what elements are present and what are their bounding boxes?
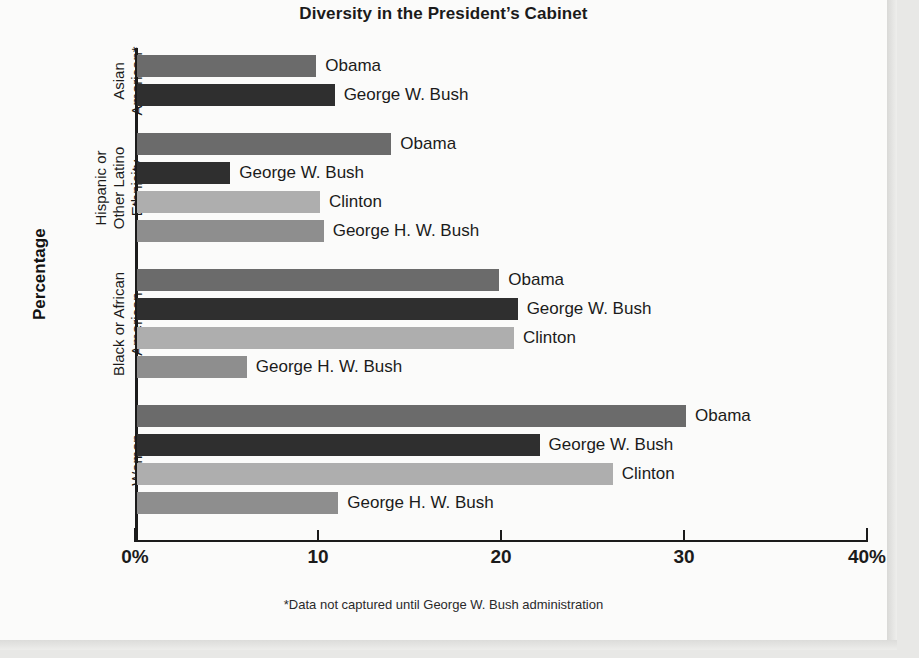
bar-label: Clinton	[523, 327, 576, 349]
bar-label: Obama	[325, 55, 381, 77]
y-group-label: Black or African	[110, 271, 127, 375]
bar-label: George W. Bush	[344, 84, 469, 106]
chart-title: Diversity in the President’s Cabinet	[0, 4, 887, 24]
y-group-label: Hispanic or	[92, 150, 109, 225]
bar-label: Clinton	[329, 191, 382, 213]
bar	[137, 133, 391, 155]
bar-label: George H. W. Bush	[333, 220, 479, 242]
bar	[137, 191, 320, 213]
bar-label: George W. Bush	[527, 298, 652, 320]
x-tick-20	[500, 530, 502, 542]
x-tick-label: 10	[307, 546, 328, 568]
bar-label: George H. W. Bush	[256, 356, 402, 378]
bar	[137, 434, 540, 456]
bar	[137, 269, 499, 291]
bar	[137, 162, 230, 184]
y-group-label: Asian	[110, 62, 127, 100]
x-tick-label: 40%	[848, 546, 886, 568]
bar	[137, 327, 514, 349]
bar-label: Obama	[508, 269, 564, 291]
bar	[137, 298, 518, 320]
x-tick-0%	[134, 528, 136, 542]
y-axis-title: Percentage	[30, 228, 50, 320]
bar-label: George H. W. Bush	[347, 492, 493, 514]
bar	[137, 356, 247, 378]
bar-label: George W. Bush	[549, 434, 674, 456]
bar	[137, 492, 338, 514]
bar	[137, 55, 316, 77]
footnote: *Data not captured until George W. Bush …	[0, 597, 887, 612]
bar-label: Obama	[400, 133, 456, 155]
x-tick-30	[683, 530, 685, 542]
x-tick-40%	[866, 528, 868, 542]
bar	[137, 463, 613, 485]
x-tick-label: 0%	[121, 546, 148, 568]
page-edge-right	[887, 0, 897, 640]
bar-label: Obama	[695, 405, 751, 427]
bar	[137, 220, 324, 242]
x-tick-10	[317, 530, 319, 542]
bar-label: George W. Bush	[239, 162, 364, 184]
page-edge-bottom	[0, 640, 897, 650]
x-tick-label: 30	[673, 546, 694, 568]
y-group-label: Other Latino	[110, 146, 127, 229]
bar	[137, 405, 686, 427]
bar	[137, 84, 335, 106]
x-tick-label: 20	[490, 546, 511, 568]
bar-label: Clinton	[622, 463, 675, 485]
scanned-page: Diversity in the President’s Cabinet Per…	[0, 0, 887, 640]
